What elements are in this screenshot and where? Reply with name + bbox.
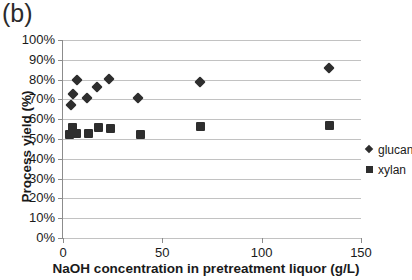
figure-panel-b: (b) 0%10%20%30%40%50%60%70%80%90%100% 05…	[0, 0, 412, 280]
legend-item-xylan: xylan	[366, 160, 412, 180]
gridline-y	[63, 159, 361, 160]
y-tick	[58, 159, 63, 160]
y-tick	[58, 218, 63, 219]
y-tick	[58, 139, 63, 140]
x-tick-label: 150	[341, 245, 381, 260]
gridline-y	[63, 60, 361, 61]
data-point-glucan	[71, 74, 82, 85]
legend-item-glucan: glucan	[366, 140, 412, 160]
y-tick	[58, 198, 63, 199]
x-tick	[262, 238, 263, 243]
data-point-glucan	[103, 73, 114, 84]
data-point-xylan	[84, 129, 93, 138]
x-tick	[63, 238, 64, 243]
gridline-y	[63, 99, 361, 100]
data-point-xylan	[325, 121, 334, 130]
y-tick-label: 100%	[7, 32, 55, 47]
legend-label: glucan	[378, 140, 412, 160]
data-point-xylan	[72, 129, 81, 138]
x-tick	[361, 238, 362, 243]
data-point-glucan	[65, 100, 76, 111]
chart-legend: glucanxylan	[366, 140, 412, 180]
legend-label: xylan	[378, 160, 406, 180]
x-tick	[162, 238, 163, 243]
y-axis-title: Process yield (%)	[19, 57, 34, 237]
y-tick	[58, 119, 63, 120]
x-tick-label: 0	[43, 245, 83, 260]
data-point-glucan	[133, 93, 144, 104]
data-point-glucan	[194, 76, 205, 87]
gridline-y	[63, 40, 361, 41]
data-point-glucan	[67, 89, 78, 100]
gridline-y	[63, 218, 361, 219]
x-tick-label: 50	[142, 245, 182, 260]
y-tick	[58, 40, 63, 41]
gridline-y	[63, 179, 361, 180]
data-point-glucan	[91, 81, 102, 92]
x-axis-title: NaOH concentration in pretreatment liquo…	[0, 261, 412, 276]
plot-area	[63, 40, 361, 238]
y-tick	[58, 60, 63, 61]
gridline-y	[63, 119, 361, 120]
square-marker-icon	[366, 166, 373, 173]
data-point-glucan	[81, 93, 92, 104]
data-point-xylan	[196, 122, 205, 131]
data-point-xylan	[94, 123, 103, 132]
panel-label: (b)	[2, 0, 33, 28]
gridline-y	[63, 238, 361, 239]
gridline-y	[63, 139, 361, 140]
diamond-marker-icon	[365, 145, 373, 153]
y-tick	[58, 179, 63, 180]
y-tick	[58, 80, 63, 81]
y-tick	[58, 99, 63, 100]
data-point-glucan	[324, 62, 335, 73]
data-point-xylan	[106, 124, 115, 133]
data-point-xylan	[136, 130, 145, 139]
x-tick-label: 100	[242, 245, 282, 260]
gridline-y	[63, 198, 361, 199]
